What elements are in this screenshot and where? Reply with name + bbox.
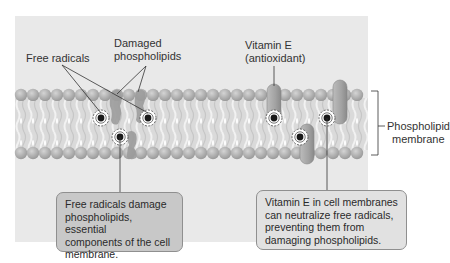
damaged-phospholipids-label-line2: phospholipids xyxy=(114,50,181,62)
vitamin-e-label-line1: Vitamin E xyxy=(245,39,292,51)
damaged-phospholipids-label-line1: Damaged xyxy=(114,37,162,49)
callout-line: membrane. xyxy=(65,248,174,261)
vitamin-e-label-line2: (antioxidant) xyxy=(245,52,306,64)
callout-line: components of the cell xyxy=(65,236,174,249)
phospholipid-membrane-label-line2: membrane xyxy=(392,133,445,145)
phospholipid-membrane-label-line1: Phospholipid xyxy=(387,120,450,132)
phospholipid-heads-top xyxy=(15,89,363,101)
callout-line: damaging phospholipids. xyxy=(265,234,398,247)
callout-line: Vitamin E in cell membranes xyxy=(265,196,398,209)
free-radical-damage-callout: Free radicals damage phospholipids, esse… xyxy=(56,192,183,252)
callout-line: preventing them from xyxy=(265,221,398,234)
callout-line: can neutralize free radicals, xyxy=(265,209,398,222)
lipid-tails xyxy=(15,98,368,150)
callout-line: Free radicals damage xyxy=(65,198,174,211)
free-radicals-label: Free radicals xyxy=(26,52,90,64)
callout-line: phospholipids, essential xyxy=(65,211,174,236)
vitamin-e-protection-callout: Vitamin E in cell membranes can neutrali… xyxy=(256,190,407,250)
